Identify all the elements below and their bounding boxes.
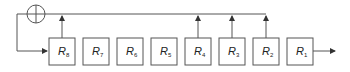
register-r3: R3 bbox=[219, 38, 245, 65]
xor-gate-icon bbox=[27, 5, 45, 23]
register-r6: R6 bbox=[117, 38, 143, 65]
register-r4: R4 bbox=[185, 38, 211, 65]
register-row: R8R7R6R5R4R3R2R1 bbox=[49, 38, 313, 65]
register-r7: R7 bbox=[83, 38, 109, 65]
tap-lines bbox=[62, 16, 266, 38]
register-r8: R8 bbox=[49, 38, 75, 65]
register-r1: R1 bbox=[287, 38, 313, 65]
register-r5: R5 bbox=[151, 38, 177, 65]
register-r2: R2 bbox=[253, 38, 279, 65]
lfsr-diagram: R8R7R6R5R4R3R2R1 bbox=[0, 0, 350, 72]
